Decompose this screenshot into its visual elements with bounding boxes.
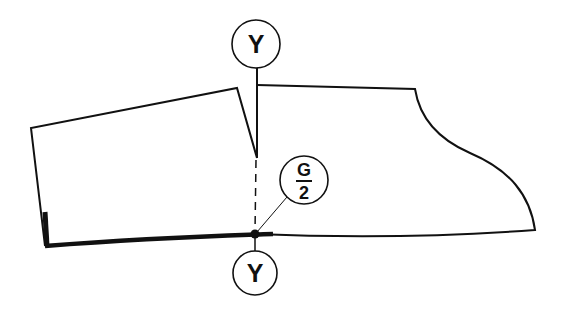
- bottom-y-marker: Y: [233, 251, 277, 295]
- g-half-marker: G 2: [280, 156, 328, 204]
- top-y-label: Y: [248, 30, 265, 58]
- pattern-diagram: Y G 2 Y: [0, 0, 574, 310]
- bottom-y-label: Y: [247, 259, 264, 287]
- dashed-guide-line: [255, 160, 256, 232]
- g-half-leader-line: [257, 197, 287, 232]
- bottom-seam-thick: [45, 234, 273, 246]
- fraction-denominator: 2: [299, 183, 309, 203]
- top-y-marker: Y: [232, 20, 280, 68]
- left-pattern-piece: [31, 88, 257, 246]
- left-edge-thick-segment: [45, 212, 47, 246]
- fraction-numerator: G: [297, 160, 311, 180]
